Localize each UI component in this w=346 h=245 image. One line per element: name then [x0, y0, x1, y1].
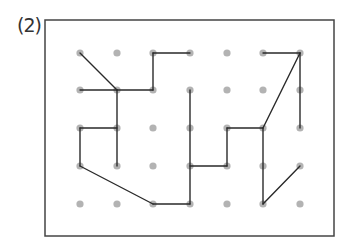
grid-dot — [223, 49, 230, 56]
line-segment — [80, 53, 117, 90]
line-segment — [263, 53, 300, 128]
dot-grid-diagram — [0, 0, 346, 245]
grid-dot — [113, 49, 120, 56]
connecting-lines — [80, 53, 300, 204]
grid-dot — [113, 200, 120, 207]
grid-dot — [259, 86, 266, 93]
line-segment — [263, 166, 300, 204]
grid-dot — [149, 124, 156, 131]
line-segment — [80, 166, 153, 204]
grid-dot — [223, 200, 230, 207]
grid-dot — [149, 162, 156, 169]
grid-dot — [76, 200, 83, 207]
grid-dot — [296, 200, 303, 207]
grid-dot — [223, 86, 230, 93]
